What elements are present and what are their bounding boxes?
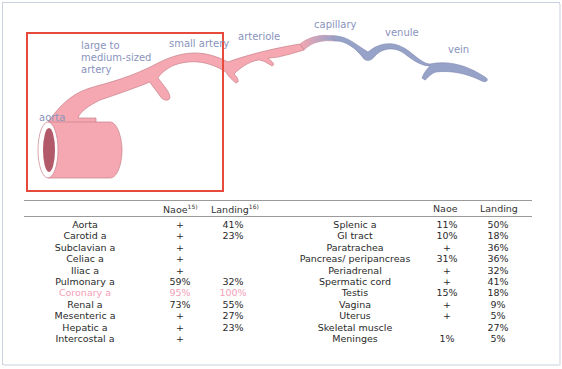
table-cell-landing: 5% xyxy=(478,310,518,321)
table-cell-naoe: + xyxy=(160,219,200,230)
table-header-rule xyxy=(24,216,532,217)
table-cell-site: Subclavian a xyxy=(40,242,130,253)
table-cell-naoe: 73% xyxy=(160,299,200,310)
table-cell-site: Meninges xyxy=(290,333,420,344)
header-landing-right: Landing xyxy=(480,203,518,214)
table-cell-site: Periadrenal xyxy=(290,265,420,276)
table-cell-site: Uterus xyxy=(290,310,420,321)
table-cell-naoe xyxy=(427,322,467,333)
table-cell-landing xyxy=(213,253,253,264)
table-cell-naoe: 11% xyxy=(427,219,467,230)
table-cell-site: Vagina xyxy=(290,299,420,310)
right-site-column: Splenic aGI tractParatracheaPancreas/ pe… xyxy=(290,219,420,344)
table-cell-naoe: + xyxy=(160,322,200,333)
label-vein: vein xyxy=(448,44,469,56)
table-cell-landing: 23% xyxy=(213,230,253,241)
header-ref: 16) xyxy=(249,203,259,210)
header-naoe-right: Naoe xyxy=(433,203,458,214)
table-cell-landing: 55% xyxy=(213,299,253,310)
table-cell-site: Mesenteric a xyxy=(40,310,130,321)
table-cell-landing: 5% xyxy=(478,333,518,344)
table-cell-landing: 27% xyxy=(213,310,253,321)
label-small-artery: small artery xyxy=(169,38,229,50)
table-cell-naoe: + xyxy=(160,265,200,276)
table-cell-naoe: + xyxy=(427,310,467,321)
table-cell-naoe: 59% xyxy=(160,276,200,287)
table-cell-landing: 41% xyxy=(478,276,518,287)
table-cell-naoe: + xyxy=(427,299,467,310)
label-capillary: capillary xyxy=(314,19,356,31)
table-cell-site: Iliac a xyxy=(40,265,130,276)
table-cell-site: Intercostal a xyxy=(40,333,130,344)
table-cell-site: Celiac a xyxy=(40,253,130,264)
table-cell-landing: 9% xyxy=(478,299,518,310)
table-cell-naoe: + xyxy=(160,230,200,241)
table-cell-naoe: 31% xyxy=(427,253,467,264)
table-cell-naoe: 1% xyxy=(427,333,467,344)
label-aorta: aorta xyxy=(39,112,65,124)
table-cell-site: Skeletal muscle xyxy=(290,322,420,333)
table-cell-landing: 18% xyxy=(478,287,518,298)
table-cell-naoe: + xyxy=(160,242,200,253)
header-label: Naoe xyxy=(163,204,188,215)
table-cell-naoe: 15% xyxy=(427,287,467,298)
label-venule: venule xyxy=(385,27,419,39)
table-cell-site: Pulmonary a xyxy=(40,276,130,287)
table-cell-naoe: 10% xyxy=(427,230,467,241)
label-line: medium-sized xyxy=(81,52,151,64)
table-cell-landing xyxy=(213,333,253,344)
left-site-column: AortaCarotid aSubclavian aCeliac aIliac … xyxy=(40,219,130,344)
table-cell-landing: 18% xyxy=(478,230,518,241)
table-cell-site: Coronary a xyxy=(40,287,130,298)
vein-icon xyxy=(330,36,487,82)
table-cell-naoe: + xyxy=(160,253,200,264)
table-cell-landing: 100% xyxy=(213,287,253,298)
table-cell-site: Renal a xyxy=(40,299,130,310)
table-cell-landing: 50% xyxy=(478,219,518,230)
table-cell-landing: 32% xyxy=(478,265,518,276)
right-landing-column: 50%18%36%36%32%41%18%9%5%27%5% xyxy=(478,219,518,344)
table-top-rule xyxy=(24,200,532,201)
header-landing-left: Landing16) xyxy=(211,203,259,215)
table-cell-naoe: + xyxy=(160,310,200,321)
table-cell-site: GI tract xyxy=(290,230,420,241)
frame-shadow xyxy=(4,364,560,366)
left-landing-column: 41%23%32%100%55%27%23% xyxy=(213,219,253,344)
table-cell-landing xyxy=(213,265,253,276)
table-cell-landing: 32% xyxy=(213,276,253,287)
table-cell-landing: 41% xyxy=(213,219,253,230)
table-cell-landing: 23% xyxy=(213,322,253,333)
table-cell-site: Splenic a xyxy=(290,219,420,230)
table-cell-site: Hepatic a xyxy=(40,322,130,333)
table-cell-naoe: 95% xyxy=(160,287,200,298)
table-cell-site: Spermatic cord xyxy=(290,276,420,287)
right-naoe-column: 11%10%+31%++15%++1% xyxy=(427,219,467,344)
table-cell-site: Testis xyxy=(290,287,420,298)
table-cell-site: Aorta xyxy=(40,219,130,230)
label-arteriole: arteriole xyxy=(238,31,280,43)
table-cell-landing: 36% xyxy=(478,242,518,253)
table-cell-naoe: + xyxy=(427,265,467,276)
label-line: artery xyxy=(81,64,151,76)
label-line: large to xyxy=(81,40,151,52)
table-cell-landing: 36% xyxy=(478,253,518,264)
table-cell-landing xyxy=(213,242,253,253)
header-label: Landing xyxy=(211,204,249,215)
table-cell-site: Pancreas/ peripancreas xyxy=(290,253,420,264)
table-cell-site: Paratrachea xyxy=(290,242,420,253)
table-cell-naoe: + xyxy=(427,276,467,287)
table-cell-naoe: + xyxy=(427,242,467,253)
table-cell-landing: 27% xyxy=(478,322,518,333)
left-naoe-column: +++++59%95%73%+++ xyxy=(160,219,200,344)
label-large-artery: large to medium-sized artery xyxy=(81,40,151,76)
table-cell-site: Carotid a xyxy=(40,230,130,241)
header-naoe-left: Naoe15) xyxy=(163,203,198,215)
table-cell-naoe: + xyxy=(160,333,200,344)
capillary-icon xyxy=(300,35,334,50)
header-ref: 15) xyxy=(188,203,198,210)
